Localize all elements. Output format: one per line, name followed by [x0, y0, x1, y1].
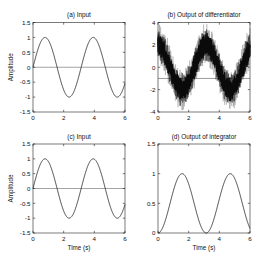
subplot-c-ytick-label: 1	[27, 155, 31, 162]
subplot-b-ytick-label: -2	[150, 86, 156, 93]
subplot-d-xtick-label: 6	[248, 235, 252, 242]
subplot-d-xtick-label: 0	[156, 235, 160, 242]
subplot-d-xtick-label: 4	[218, 235, 222, 242]
subplot-c: 0246-1.5-1-0.500.511.5(c) InputTime (s)A…	[7, 133, 127, 253]
subplot-b-ytick-label: -4	[150, 108, 156, 115]
subplot-c-ytick-label: 0.5	[22, 170, 31, 177]
subplot-b-xtick-label: 2	[187, 114, 191, 121]
subplot-a-ytick-label: 1.5	[22, 19, 31, 26]
subplot-c-xtick-label: 4	[93, 235, 97, 242]
subplot-c-ytick-label: -1.5	[20, 229, 31, 236]
subplot-c-ytick-label: -1	[25, 214, 31, 221]
subplot-a-ytick-label: 1	[27, 34, 31, 41]
subplot-b: 0246-4-2024(b) Output of differentiator	[150, 11, 252, 121]
subplot-b-xtick-label: 6	[248, 114, 252, 121]
subplot-b-xtick-label: 4	[218, 114, 222, 121]
subplot-c-xlabel: Time (s)	[68, 244, 91, 252]
subplot-c-ylabel: Amplitude	[7, 174, 15, 202]
subplot-d-ytick-label: 0.5	[147, 200, 156, 207]
subplot-c-xtick-label: 2	[62, 235, 66, 242]
subplot-a-xtick-label: 2	[62, 114, 66, 121]
subplot-d-ytick-label: 1	[152, 170, 156, 177]
subplot-d-ytick-label: 0	[152, 229, 156, 236]
subplot-d-ytick-label: 1.5	[147, 140, 156, 147]
subplot-b-xtick-label: 0	[156, 114, 160, 121]
subplot-a-ylabel: Amplitude	[7, 53, 15, 81]
subplot-d-series-0	[158, 174, 250, 233]
subplot-b-ytick-label: 4	[152, 19, 156, 26]
subplot-d-xtick-label: 2	[187, 235, 191, 242]
subplot-c-ytick-label: -0.5	[20, 200, 31, 207]
subplot-c-xtick-label: 0	[31, 235, 35, 242]
subplot-a-xtick-label: 4	[93, 114, 97, 121]
subplot-c-title: (c) Input	[67, 133, 91, 141]
matlab-figure: 0246-1.5-1-0.500.511.5(a) InputAmplitude…	[0, 0, 262, 262]
subplot-d-xlabel: Time (s)	[193, 244, 216, 252]
subplot-c-ytick-label: 0	[27, 185, 31, 192]
subplot-c-ytick-label: 1.5	[22, 140, 31, 147]
subplot-a-ytick-label: -1.5	[20, 108, 31, 115]
subplot-b-ytick-label: 0	[152, 64, 156, 71]
subplot-a-ytick-label: 0.5	[22, 49, 31, 56]
subplot-b-title: (b) Output of differentiator	[167, 11, 241, 19]
subplot-a-ytick-label: -1	[25, 93, 31, 100]
subplot-d-title: (d) Output of integrator	[172, 133, 238, 141]
subplot-a-title: (a) Input	[67, 11, 91, 19]
subplot-a-xtick-label: 6	[123, 114, 127, 121]
subplot-d: 024600.511.5(d) Output of integratorTime…	[147, 133, 252, 253]
subplot-a-ytick-label: 0	[27, 64, 31, 71]
figure-svg: 0246-1.5-1-0.500.511.5(a) InputAmplitude…	[0, 0, 262, 262]
subplot-b-ytick-label: 2	[152, 41, 156, 48]
subplot-c-xtick-label: 6	[123, 235, 127, 242]
subplot-a-ytick-label: -0.5	[20, 78, 31, 85]
subplot-a-xtick-label: 0	[31, 114, 35, 121]
subplot-d-axes-box	[158, 144, 250, 233]
subplot-a: 0246-1.5-1-0.500.511.5(a) InputAmplitude	[7, 11, 127, 121]
